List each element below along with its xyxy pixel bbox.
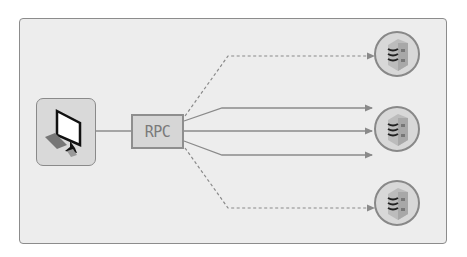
- dashed-line-server-3: [185, 148, 374, 208]
- rpc-box[interactable]: RPC: [131, 114, 184, 149]
- server-icon: [376, 182, 418, 224]
- server-icon: [376, 33, 418, 75]
- rpc-label: RPC: [145, 123, 171, 141]
- server-2[interactable]: [374, 106, 420, 152]
- client-computer[interactable]: [36, 98, 96, 166]
- solid-line-upper: [184, 108, 372, 121]
- server-icon: [376, 108, 418, 150]
- solid-line-lower: [184, 141, 372, 155]
- server-3[interactable]: [374, 180, 420, 226]
- desktop-computer-icon: [37, 99, 94, 164]
- server-1[interactable]: [374, 31, 420, 77]
- dashed-line-server-1: [185, 56, 374, 116]
